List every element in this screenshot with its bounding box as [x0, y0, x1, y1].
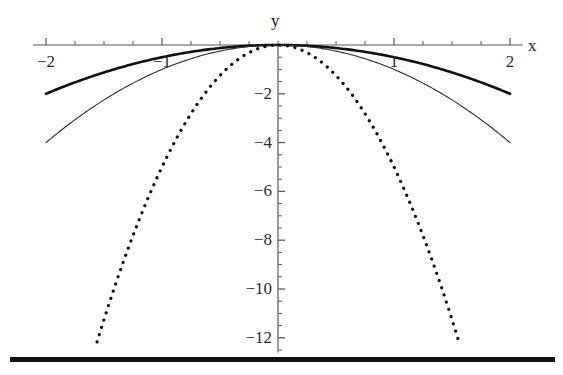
- x-tick-label: −1: [153, 52, 171, 72]
- baseline-bar: [10, 357, 555, 362]
- x-tick-label: 2: [506, 52, 515, 72]
- y-tick-label: −10: [230, 279, 272, 299]
- plot-canvas: [0, 0, 563, 375]
- x-axis-label: x: [528, 36, 537, 56]
- y-axis-label: y: [271, 11, 280, 31]
- x-tick-label: −2: [37, 52, 55, 72]
- y-tick-label: −12: [230, 328, 272, 348]
- x-tick-label: 1: [390, 52, 399, 72]
- axes-group: [33, 41, 523, 352]
- y-tick-label: −4: [230, 133, 272, 153]
- y-tick-label: −8: [230, 230, 272, 250]
- y-tick-label: −2: [230, 84, 272, 104]
- chart-figure: x y −2−112−2−4−6−8−10−12: [0, 0, 563, 375]
- y-tick-label: −6: [230, 181, 272, 201]
